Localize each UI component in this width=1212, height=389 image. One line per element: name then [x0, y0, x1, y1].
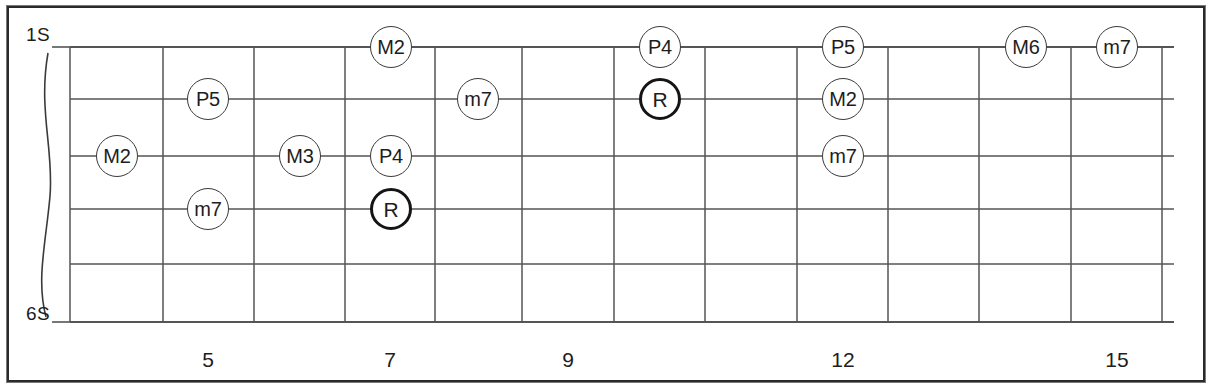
fret-number-12: 12 — [831, 348, 854, 372]
note-marker[interactable]: m7 — [187, 188, 229, 230]
note-marker[interactable]: P5 — [822, 26, 864, 68]
note-marker[interactable]: m7 — [457, 78, 499, 120]
fret-number-15: 15 — [1105, 348, 1128, 372]
fret-number-7: 7 — [384, 348, 396, 372]
string-brace-icon — [42, 53, 51, 317]
fretboard-diagram-page: 1S 6S 5791215 M2P5m7M3M2P4Rm7P4RP5M2m7M6… — [0, 0, 1212, 389]
fret-number-9: 9 — [562, 348, 574, 372]
string-label-sixth: 6S — [26, 303, 50, 325]
note-marker[interactable]: P5 — [187, 78, 229, 120]
note-marker[interactable]: m7 — [822, 135, 864, 177]
note-marker[interactable]: m7 — [1096, 26, 1138, 68]
root-note-marker[interactable]: R — [370, 188, 412, 230]
note-marker[interactable]: M3 — [279, 135, 321, 177]
note-marker[interactable]: P4 — [639, 26, 681, 68]
note-marker[interactable]: P4 — [370, 135, 412, 177]
fretboard: 1S 6S 5791215 M2P5m7M3M2P4Rm7P4RP5M2m7M6… — [0, 0, 1212, 389]
note-marker[interactable]: M2 — [96, 135, 138, 177]
note-marker[interactable]: M2 — [370, 26, 412, 68]
string-label-first: 1S — [26, 24, 50, 46]
root-note-marker[interactable]: R — [639, 78, 681, 120]
fret-number-5: 5 — [202, 348, 214, 372]
note-marker[interactable]: M6 — [1005, 26, 1047, 68]
note-marker[interactable]: M2 — [822, 78, 864, 120]
